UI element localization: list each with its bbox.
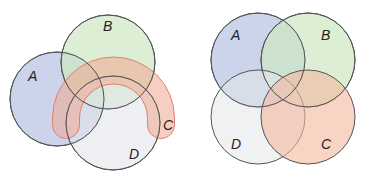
right-label-c: C xyxy=(321,136,332,152)
left-label-d: D xyxy=(129,146,139,162)
right-set-c-circle xyxy=(261,70,355,164)
right-label-a: A xyxy=(230,27,240,43)
left-label-b: B xyxy=(103,18,112,34)
right-venn-diagram: A B C D xyxy=(211,13,355,164)
venn-figure: A B C D A B C D xyxy=(0,0,371,179)
right-label-b: B xyxy=(321,27,330,43)
right-label-d: D xyxy=(231,136,241,152)
left-label-a: A xyxy=(27,68,37,84)
left-label-c: C xyxy=(163,117,174,133)
left-venn-diagram: A B C D xyxy=(10,15,175,170)
